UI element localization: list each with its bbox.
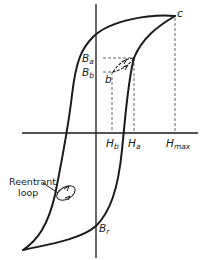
label-hmax: Hmax [166, 137, 191, 151]
label-br: Br [99, 222, 110, 236]
label-ha: Ha [128, 137, 141, 151]
label-hb: Hb [106, 137, 119, 151]
label-ba: Ba [82, 52, 94, 66]
minor-loop-arrow-upper [122, 59, 127, 64]
label-c: c [177, 7, 183, 19]
minor-loop-arrow-lower [123, 65, 128, 70]
hysteresis-diagram: c Ba Bb b Hb Ha Hmax Br Reentrant loop [0, 0, 220, 260]
label-b: b [105, 73, 112, 85]
reentrant-label-line1: Reentrant [9, 176, 56, 187]
label-bb: Bb [82, 66, 94, 80]
reentrant-label-line2: loop [18, 187, 38, 198]
